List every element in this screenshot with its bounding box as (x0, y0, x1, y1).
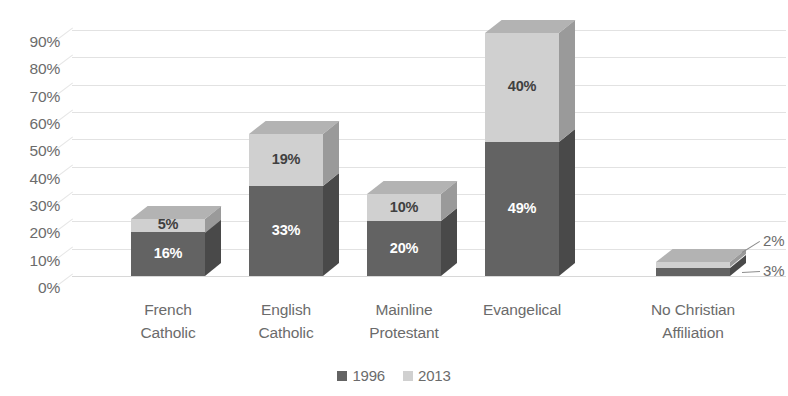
gridline-60 (72, 112, 786, 113)
gridline-40 (72, 167, 786, 168)
bar-value-label: 33% (249, 222, 323, 238)
x-axis-label-line: Catholic (101, 321, 235, 344)
bar-segment-2013[interactable]: 19% (249, 134, 323, 186)
legend-swatch (403, 371, 413, 381)
y-axis-tick-label: 70% (8, 88, 60, 106)
bar-group[interactable]: 33%19% (249, 134, 323, 276)
y-axis-tick-label: 40% (8, 170, 60, 188)
chart-container: 16%5%33%19%20%10%49%40% 2%3% 90%80%70%60… (0, 0, 788, 396)
x-axis-label-line: Catholic (219, 321, 353, 344)
x-axis-label-line: Mainline (337, 298, 471, 321)
callout-2013-leader-line (742, 241, 761, 253)
bar-value-label: 40% (485, 78, 559, 94)
bar-group[interactable]: 49%40% (485, 33, 559, 276)
y-axis-tick-label: 60% (8, 115, 60, 133)
y-axis-tick-label: 80% (8, 60, 60, 78)
bar-value-label: 20% (367, 240, 441, 256)
callout-1996-leader-line (742, 271, 760, 273)
x-axis-category-label: FrenchCatholic (101, 298, 235, 344)
x-axis-label-line: English (219, 298, 353, 321)
legend-swatch (337, 371, 347, 381)
bar-value-label: 19% (249, 151, 323, 167)
y-axis-tick-label: 50% (8, 142, 60, 160)
x-axis-label-line: Evangelical (455, 298, 589, 321)
bar-segment-1996[interactable]: 33% (249, 186, 323, 276)
legend-label: 2013 (418, 367, 451, 384)
bar-segment-side-face (323, 173, 339, 276)
bar-group[interactable]: 20%10% (367, 194, 441, 276)
bar-segment-1996[interactable]: 16% (131, 232, 205, 276)
gridline-90 (72, 30, 786, 31)
plot-area: 16%5%33%19%20%10%49%40% 2%3% (0, 0, 788, 290)
callout-2013-label: 2% (763, 232, 784, 249)
bar-segment-2013[interactable]: 10% (367, 194, 441, 221)
gridline-70 (72, 85, 786, 86)
bar-group[interactable] (656, 262, 730, 276)
y-axis-tick-label: 30% (8, 197, 60, 215)
bar-segment-2013[interactable] (656, 262, 730, 267)
gridline-50 (72, 139, 786, 140)
legend-item[interactable]: 2013 (403, 367, 451, 384)
bar-value-label: 5% (131, 216, 205, 232)
bar-segment-side-face (559, 129, 575, 276)
bar-value-label: 10% (367, 199, 441, 215)
x-axis-category-label: EnglishCatholic (219, 298, 353, 344)
x-axis-label-line: Affiliation (626, 321, 760, 344)
bar-segment-side-face (559, 20, 575, 142)
x-axis-category-label: Evangelical (455, 298, 589, 321)
bar-segment-2013[interactable]: 5% (131, 219, 205, 233)
chart-legend: 19962013 (0, 367, 788, 384)
y-axis-tick-label: 90% (8, 33, 60, 51)
y-axis-tick-label: 10% (8, 252, 60, 270)
legend-item[interactable]: 1996 (337, 367, 385, 384)
x-axis-label-line: No Christian (626, 298, 760, 321)
bar-segment-front-face (656, 268, 730, 276)
x-axis: FrenchCatholicEnglishCatholicMainlinePro… (0, 292, 788, 362)
gridline-0 (72, 276, 786, 277)
legend-label: 1996 (352, 367, 385, 384)
bar-segment-2013[interactable]: 40% (485, 33, 559, 142)
bar-segment-1996[interactable]: 20% (367, 221, 441, 276)
x-axis-label-line: French (101, 298, 235, 321)
y-axis: 90%80%70%60%50%40%30%20%10%0% (0, 0, 60, 290)
bar-value-label: 16% (131, 245, 205, 261)
x-axis-label-line: Protestant (337, 321, 471, 344)
bar-group[interactable]: 16%5% (131, 219, 205, 276)
callout-1996-label: 3% (763, 262, 784, 279)
bar-segment-1996[interactable] (656, 268, 730, 276)
x-axis-category-label: No ChristianAffiliation (626, 298, 760, 344)
bar-segment-front-face (656, 262, 730, 267)
y-axis-tick-label: 20% (8, 224, 60, 242)
gridline-80 (72, 57, 786, 58)
bar-segment-1996[interactable]: 49% (485, 142, 559, 276)
bar-value-label: 49% (485, 200, 559, 216)
x-axis-category-label: MainlineProtestant (337, 298, 471, 344)
